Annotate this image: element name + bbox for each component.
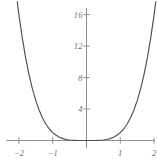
y-tick-label-3: 16 <box>71 10 83 19</box>
y-tick-label-0: 4 <box>71 105 83 114</box>
plot-area <box>0 0 157 166</box>
x-tick-label-0: −2 <box>14 149 24 158</box>
chart-figure: −2−112 481216 <box>0 0 157 166</box>
y-tick-label-2: 12 <box>71 42 83 51</box>
x-tick-label-3: 2 <box>152 149 156 158</box>
x-tick-label-1: −1 <box>48 149 58 158</box>
y-tick-label-1: 8 <box>71 73 83 82</box>
x-tick-label-2: 1 <box>118 149 122 158</box>
